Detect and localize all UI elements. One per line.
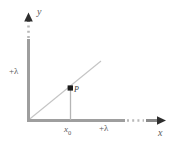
- arrow-right-icon: [157, 116, 166, 125]
- x-axis-tick-label: +λ: [99, 124, 108, 133]
- diagram-canvas: [0, 0, 173, 144]
- x-axis-label: x: [158, 128, 162, 138]
- x-origin-tick-subscript: 0: [68, 129, 71, 136]
- y-axis-tick-label: +λ: [9, 67, 18, 76]
- x-origin-tick-label: x0: [64, 125, 71, 136]
- arrow-up-icon: [24, 13, 33, 22]
- y-axis-label: y: [37, 7, 41, 17]
- diagonal-ray: [29, 61, 102, 120]
- square-dot-marker: [68, 85, 73, 90]
- coordinate-diagram: y x +λ x0 +λ P: [0, 0, 173, 144]
- point-p-label: P: [74, 86, 79, 94]
